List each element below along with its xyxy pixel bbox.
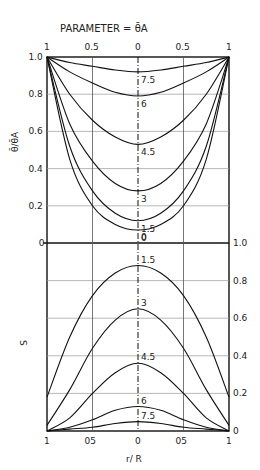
x-tick-bottom: 0: [135, 436, 141, 446]
x-tick-bottom: 05: [176, 436, 187, 446]
y-tick-right: 0.8: [233, 276, 248, 286]
x-tick-top: 0.5: [85, 42, 99, 52]
chart-title: PARAMETER = θ̄A: [60, 22, 148, 34]
y-tick-right: 0.4: [233, 351, 248, 361]
chart-figure: PARAMETER = θ̄A 7.564.531.5001.534.567.5…: [0, 0, 260, 470]
y-tick-left: 0: [39, 238, 45, 248]
y-tick-left: 0.8: [28, 89, 43, 99]
y-tick-right: 1.0: [233, 238, 248, 248]
curve-label: 4.5: [141, 147, 155, 157]
grid-lines: [43, 57, 229, 431]
curve-label: 0: [141, 232, 147, 242]
curve-label: 3: [141, 298, 147, 308]
curve-label: 1.5: [141, 255, 155, 265]
y-tick-left: 0.6: [28, 126, 43, 136]
x-tick-bottom: 05: [85, 436, 96, 446]
y-tick-left: 0.4: [28, 164, 43, 174]
curve-label: 3: [141, 194, 147, 204]
upper-y-axis-label: θ̄/θ̄A: [9, 131, 20, 152]
y-tick-left: 0.2: [28, 201, 42, 211]
lower-y-axis-label: S: [18, 340, 28, 346]
x-axis-label: r/ R: [126, 454, 142, 464]
curve-label: 4.5: [141, 352, 155, 362]
x-tick-top: 0: [135, 42, 141, 52]
x-tick-bottom: 1: [44, 436, 50, 446]
x-tick-top: 1: [226, 42, 232, 52]
y-tick-right: 0.6: [233, 313, 248, 323]
y-tick-right: 0: [233, 426, 239, 436]
curve-label: 7.5: [141, 411, 155, 421]
x-tick-top: 1: [44, 42, 50, 52]
x-tick-top: 0.5: [176, 42, 190, 52]
curve-label: 7.5: [141, 75, 155, 85]
curve-label: 6: [141, 396, 147, 406]
y-tick-right: 0.2: [233, 388, 247, 398]
y-tick-left: 1.0: [28, 52, 43, 62]
x-tick-bottom: 1: [226, 436, 232, 446]
curve-label: 6: [141, 99, 147, 109]
